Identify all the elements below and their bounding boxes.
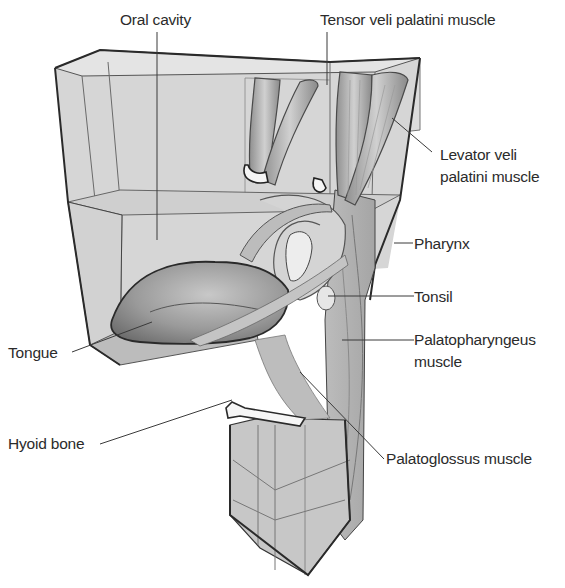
label-levator-veli-palatini-line1: Levator veli [440, 146, 517, 164]
pharynx-anatomy-diagram [0, 0, 565, 588]
label-tonsil: Tonsil [414, 288, 452, 306]
label-tongue: Tongue [8, 344, 58, 362]
label-oral-cavity: Oral cavity [120, 11, 191, 29]
label-tensor-veli-palatini: Tensor veli palatini muscle [320, 11, 496, 29]
label-levator-veli-palatini-line2: palatini muscle [440, 168, 540, 186]
lower-box [230, 418, 350, 575]
label-palatoglossus: Palatoglossus muscle [386, 450, 532, 468]
tonsil [317, 286, 335, 310]
label-hyoid-bone: Hyoid bone [8, 435, 84, 453]
leader-hyoid-bone [100, 400, 232, 444]
label-palatopharyngeus-line2: muscle [414, 353, 462, 371]
label-palatopharyngeus-line1: Palatopharyngeus [414, 331, 536, 349]
label-pharynx: Pharynx [414, 235, 469, 253]
